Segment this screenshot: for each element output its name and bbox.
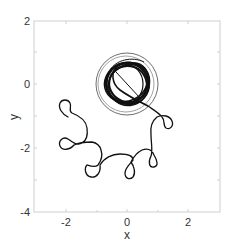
x-axis-label: x <box>124 228 130 242</box>
y-tick-2: 2 <box>24 15 30 27</box>
x-tick-0: 0 <box>124 216 130 228</box>
x-tick-2: 2 <box>185 216 191 228</box>
y-tick-neg4: -4 <box>20 206 30 218</box>
y-tick-0: 0 <box>24 78 30 90</box>
x-tick-neg2: -2 <box>61 216 71 228</box>
y-axis-label: y <box>7 114 21 120</box>
plot-frame <box>34 21 220 212</box>
chart: 2 0 -2 -4 -2 0 2 x y <box>0 0 231 251</box>
y-tick-neg2: -2 <box>20 142 30 154</box>
